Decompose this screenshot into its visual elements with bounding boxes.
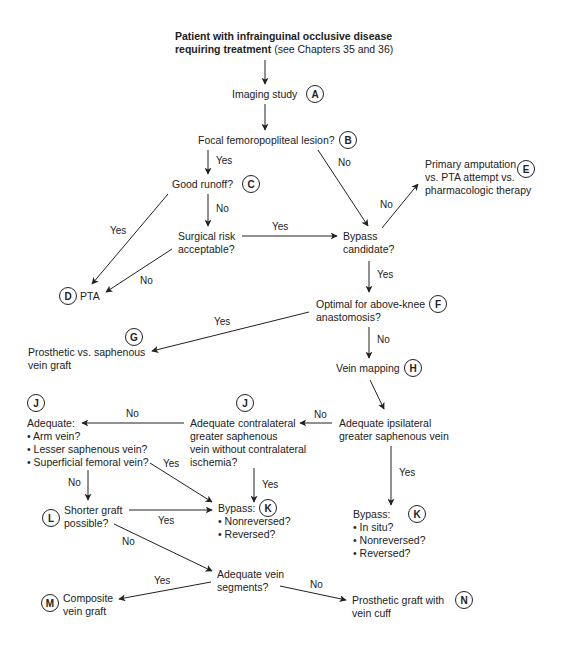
badge-e: E	[518, 161, 535, 178]
node-label-line-1: Bypass:	[218, 502, 255, 514]
edge-shorter-no	[114, 524, 212, 571]
edge-label-risk-yes: Yes	[272, 221, 288, 232]
edge-label-optimal-yes: Yes	[214, 316, 230, 327]
node-label-line-2: greater saphenous	[190, 430, 278, 442]
node-label-line-1: Prosthetic vs. saphenous	[28, 346, 145, 358]
node-good-runoff: Good runoff? C	[172, 176, 260, 193]
svg-text:A: A	[311, 89, 318, 100]
badge-k-right: K	[409, 506, 426, 523]
svg-text:H: H	[409, 363, 416, 374]
badge-m: M	[42, 595, 59, 612]
node-label-line-3: pharmacologic therapy	[425, 184, 532, 196]
node-label-line-2: greater saphenous vein	[339, 430, 449, 442]
edge-label-runoff-no: No	[216, 203, 229, 214]
svg-text:J: J	[33, 398, 39, 409]
node-optimal-above-knee: Optimal for above-knee anastomosis? F	[316, 296, 447, 324]
node-ipsilateral-gsv: Adequate ipsilateral greater saphenous v…	[339, 417, 449, 442]
node-label: Good runoff?	[172, 178, 233, 190]
edge-label-bypass-yes: Yes	[377, 269, 393, 280]
node-prosthetic-vs-saphenous: G Prosthetic vs. saphenous vein graft	[28, 329, 145, 372]
edge-optimal-yes	[152, 312, 309, 351]
node-label-line-3: • Nonreversed?	[353, 534, 426, 546]
svg-text:N: N	[460, 595, 467, 606]
node-pta: D PTA	[60, 288, 100, 305]
edge-label-ipsilateral-yes: Yes	[399, 467, 415, 478]
node-alternative-veins: J Adequate: • Arm vein? • Lesser sapheno…	[27, 395, 149, 469]
node-imaging-study: Imaging study A	[232, 86, 324, 103]
node-label: Imaging study	[232, 88, 298, 100]
node-label-line-1: Adequate ipsilateral	[339, 417, 431, 429]
node-label: PTA	[80, 290, 100, 302]
svg-text:K: K	[413, 509, 421, 520]
edge-label-segments-no: No	[310, 579, 323, 590]
node-label-line-1: Bypass:	[353, 508, 390, 520]
node-bypass-left: Bypass: K • Nonreversed? • Reversed?	[218, 500, 291, 541]
edge-label-shorter-yes: Yes	[158, 515, 174, 526]
badge-b: B	[340, 132, 357, 149]
node-primary-amputation: Primary amputation vs. PTA attempt vs. p…	[425, 158, 535, 196]
node-label-line-2: possible?	[64, 517, 109, 529]
node-label-line-2: segments?	[217, 581, 269, 593]
node-label-line-2: • In situ?	[353, 521, 394, 533]
edge-label-runoff-yes: Yes	[110, 225, 126, 236]
start-line-2-rest: (see Chapters 35 and 36)	[271, 43, 393, 55]
node-label-line-1: Composite	[63, 592, 113, 604]
node-label-line-1: Surgical risk	[178, 230, 236, 242]
badge-n: N	[456, 592, 473, 609]
node-label-line-1: Shorter graft	[64, 504, 122, 516]
badge-j-contralateral: J	[237, 395, 254, 412]
node-composite-vein-graft: M Composite vein graft	[42, 592, 114, 617]
node-label: Vein mapping	[336, 362, 400, 374]
node-prosthetic-with-cuff: Prosthetic graft with vein cuff N	[352, 592, 473, 620]
edge-label-bypass-no: No	[380, 199, 393, 210]
node-shorter-graft: L Shorter graft possible?	[43, 504, 123, 529]
badge-g: G	[126, 329, 143, 346]
svg-text:J: J	[242, 398, 248, 409]
edge-label-shorter-no: No	[122, 536, 135, 547]
node-label-line-1: Optimal for above-knee	[316, 298, 425, 310]
node-bypass-right: Bypass: K • In situ? • Nonreversed? • Re…	[353, 506, 426, 560]
edge-label-contralateral-no: No	[126, 408, 139, 419]
node-label-line-4: • Superficial femoral vein?	[27, 456, 149, 468]
node-label-line-2: vein graft	[63, 605, 106, 617]
node-label: Focal femoropopliteal lesion?	[198, 134, 335, 146]
svg-text:C: C	[247, 179, 254, 190]
node-label-line-4: • Reversed?	[353, 547, 411, 559]
node-bypass-candidate: Bypass candidate?	[343, 230, 395, 255]
node-label-line-2: candidate?	[343, 243, 395, 255]
edge-label-contralateral-yes: Yes	[262, 479, 278, 490]
node-contralateral-gsv: J Adequate contralateral greater sapheno…	[190, 395, 306, 469]
edge-label-optimal-no: No	[377, 334, 390, 345]
node-label-line-3: vein without contralateral	[190, 443, 306, 455]
node-label-line-2: • Nonreversed?	[218, 515, 291, 527]
svg-text:F: F	[435, 299, 441, 310]
flowchart: Patient with infrainguinal occlusive dis…	[0, 0, 568, 652]
node-vein-segments: Adequate vein segments?	[217, 568, 284, 593]
svg-text:D: D	[64, 291, 71, 302]
badge-a: A	[307, 86, 324, 103]
edge-alternative-yes	[150, 463, 212, 502]
badge-d: D	[60, 288, 77, 305]
node-label-line-2: vs. PTA attempt vs.	[425, 171, 515, 183]
svg-text:M: M	[46, 598, 54, 609]
badge-h: H	[405, 360, 422, 377]
svg-text:G: G	[130, 332, 138, 343]
svg-text:B: B	[344, 135, 351, 146]
start-line-2: requiring treatment (see Chapters 35 and…	[175, 43, 393, 55]
node-label-line-1: Prosthetic graft with	[352, 594, 444, 606]
node-label-line-3: • Reversed?	[218, 528, 276, 540]
badge-l: L	[43, 510, 60, 527]
node-label-line-2: vein cuff	[352, 607, 391, 619]
edge-label-ipsilateral-no: No	[314, 409, 327, 420]
badge-j-alternative: J	[28, 395, 45, 412]
badge-c: C	[243, 176, 260, 193]
svg-text:K: K	[264, 503, 272, 514]
edge-runoff-yes	[92, 194, 168, 284]
edge-label-focal-no: No	[338, 157, 351, 168]
node-label-line-1: Adequate contralateral	[190, 417, 296, 429]
node-label-line-2: anastomosis?	[316, 311, 381, 323]
node-label-line-1: Bypass	[343, 230, 377, 242]
edge-mapping-to-ipsilateral	[370, 380, 384, 409]
node-label-line-1: Adequate:	[27, 417, 75, 429]
node-label-line-2: vein graft	[28, 359, 71, 371]
